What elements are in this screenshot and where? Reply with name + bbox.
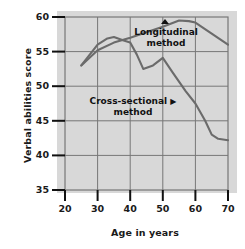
cross-sectional-label-line2: method	[78, 107, 188, 118]
longitudinal-label-line1: Longitudinal	[129, 27, 203, 38]
longitudinal-annotation: Longitudinal method	[129, 27, 203, 49]
cross-sectional-label-line1: Cross-sectional ▶	[78, 96, 188, 107]
cross-sectional-pointer-icon: ▶	[170, 97, 176, 106]
longitudinal-label-line2: method	[129, 38, 203, 49]
x-tick-label: 40	[118, 203, 142, 214]
longitudinal-pointer-icon	[161, 19, 169, 24]
chart-figure: 605550454035 203040506070 Verbal abiliti…	[0, 0, 245, 249]
y-axis-title: Verbal abilities score	[22, 26, 33, 186]
x-tick-label: 20	[53, 203, 77, 214]
x-tick-label: 60	[183, 203, 207, 214]
x-tick-label: 50	[151, 203, 175, 214]
x-tick-label: 30	[86, 203, 110, 214]
x-tick-label: 70	[216, 203, 240, 214]
y-tick-label: 35	[27, 184, 49, 195]
cross-sectional-label-text: Cross-sectional	[90, 96, 168, 106]
cross-sectional-annotation: Cross-sectional ▶ method	[78, 96, 188, 118]
x-axis-title: Age in years	[55, 227, 235, 238]
y-tick-label: 60	[27, 11, 49, 22]
